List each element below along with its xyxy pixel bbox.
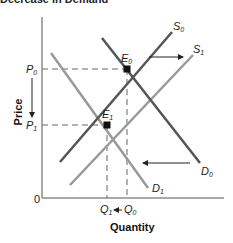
s1-label: S1 (193, 43, 204, 56)
e1-label: E1 (102, 108, 113, 121)
x-axis-title: Quantity (110, 221, 155, 233)
d0-label: D0 (201, 165, 213, 178)
e0-label: E0 (121, 52, 132, 65)
e0-point (124, 66, 131, 73)
y-axis-title: Price (12, 99, 24, 126)
q0-label: Q0 (124, 203, 137, 216)
d1-curve (51, 53, 148, 188)
s0-label: S0 (173, 20, 184, 33)
d1-label: D1 (152, 182, 164, 195)
p0-label: P0 (26, 63, 37, 76)
p1-label: P1 (26, 119, 37, 132)
q1-label: Q1 (100, 203, 113, 216)
origin-label: 0 (34, 193, 40, 205)
e1-point (104, 122, 111, 129)
supply-demand-chart: S0 S1 D0 D1 E0 E1 P0 P1 Q1 Q0 0 Quantity… (0, 0, 233, 243)
